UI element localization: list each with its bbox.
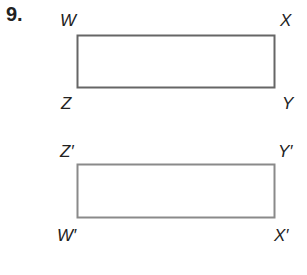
vertex-label-w-prime: W′ bbox=[57, 227, 76, 244]
vertex-label-x: X bbox=[280, 12, 291, 29]
vertex-label-x-prime: X′ bbox=[274, 227, 289, 244]
original-rectangle bbox=[78, 36, 275, 88]
vertex-label-z-prime: Z′ bbox=[60, 143, 74, 160]
vertex-label-y: Y bbox=[282, 95, 293, 112]
vertex-label-w: W bbox=[60, 12, 76, 29]
vertex-label-z: Z bbox=[61, 95, 71, 112]
diagram-canvas bbox=[0, 0, 307, 275]
image-rectangle bbox=[78, 165, 275, 218]
vertex-label-y-prime: Y′ bbox=[278, 143, 293, 160]
